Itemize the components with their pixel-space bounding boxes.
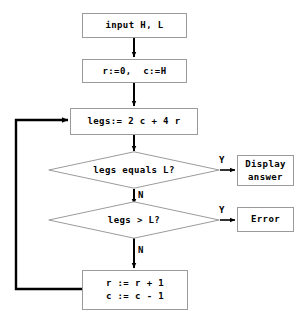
flowchart-diagram: input H, L r:=0, c:=H legs:= 2 c + 4 r l… [0, 0, 308, 324]
edge-label-equals-no: N [138, 190, 143, 200]
node-display-answer-line1: Display [245, 158, 286, 171]
node-legs-greater-decision: legs > L? [48, 201, 220, 239]
edge-label-equals-yes: Y [219, 155, 224, 165]
node-input-label: input H, L [105, 19, 163, 32]
node-update-counters-line1: r := r + 1 [106, 277, 164, 290]
node-display-answer-line2: answer [248, 171, 283, 184]
node-input: input H, L [82, 13, 187, 38]
node-update-counters-line2: c := c - 1 [106, 290, 164, 303]
node-init: r:=0, c:=H [82, 59, 187, 83]
node-error-label: Error [251, 213, 280, 226]
edge-label-greater-no: N [138, 245, 143, 255]
node-legs-assignment: legs:= 2 c + 4 r [70, 108, 198, 135]
node-legs-equals-decision: legs equals L? [48, 151, 220, 189]
node-update-counters: r := r + 1 c := c - 1 [82, 270, 188, 310]
node-display-answer: Display answer [237, 155, 294, 186]
node-init-label: r:=0, c:=H [102, 65, 166, 78]
node-legs-assignment-label: legs:= 2 c + 4 r [87, 115, 180, 128]
edge-label-greater-yes: Y [219, 205, 224, 215]
node-error: Error [237, 207, 294, 232]
